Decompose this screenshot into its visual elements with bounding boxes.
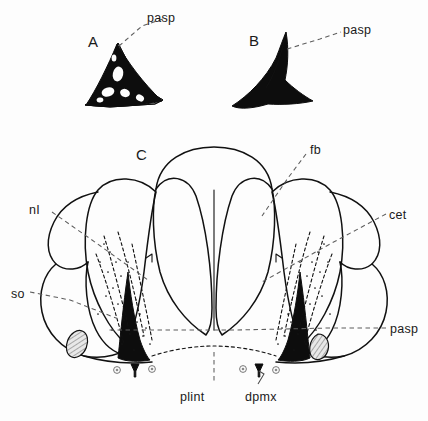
panel-letter-c: C bbox=[136, 146, 147, 163]
figure-svg bbox=[0, 0, 428, 421]
figure-root: A B C pasp pasp fb cet nI so pasp plint … bbox=[0, 0, 428, 421]
label-dpmx: dpmx bbox=[245, 390, 277, 404]
label-nI: nI bbox=[29, 203, 40, 217]
panel-letter-a: A bbox=[88, 33, 99, 50]
markers-right bbox=[240, 364, 280, 377]
label-plint: plint bbox=[180, 390, 204, 404]
panel-c-drawing bbox=[30, 147, 387, 384]
label-pasp-a: pasp bbox=[147, 11, 175, 25]
panel-letter-b: B bbox=[249, 32, 260, 49]
markers-left bbox=[114, 364, 156, 377]
leader-pasp-b bbox=[287, 32, 341, 49]
label-pasp-b: pasp bbox=[343, 23, 371, 37]
label-cet: cet bbox=[389, 208, 407, 222]
label-pasp-c: pasp bbox=[390, 322, 418, 336]
hatched-oval-right bbox=[310, 334, 329, 360]
label-so: so bbox=[11, 287, 25, 301]
leader-nI bbox=[52, 212, 148, 280]
label-fb: fb bbox=[310, 143, 321, 157]
hatched-oval-left bbox=[62, 327, 91, 360]
